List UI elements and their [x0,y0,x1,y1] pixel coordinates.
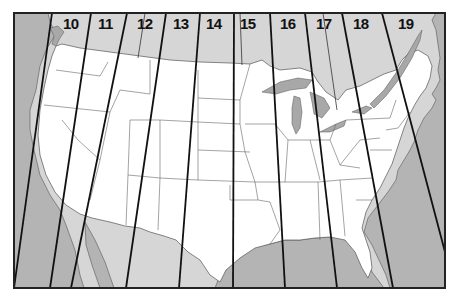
zone-label-15: 15 [240,15,256,32]
zone-label-11: 11 [98,15,113,32]
zone-label-13: 13 [173,15,189,32]
zone-label-10: 10 [63,15,79,32]
zone-label-19: 19 [398,15,414,32]
zone-label-14: 14 [206,15,222,32]
zone-label-16: 16 [280,15,296,32]
zone-map [0,0,453,297]
zone-label-17: 17 [316,15,332,32]
zone-label-12: 12 [137,15,153,32]
zone-label-18: 18 [353,15,369,32]
